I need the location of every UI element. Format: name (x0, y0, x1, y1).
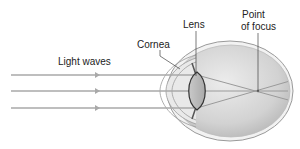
label-light-waves: Light waves (58, 56, 111, 67)
lens (189, 72, 206, 110)
ray-arrowhead (95, 72, 100, 78)
eye-diagram: Light waves Cornea Lens Point of focus (0, 0, 300, 149)
label-point-of-focus-2: of focus (241, 21, 276, 32)
label-point-of-focus-1: Point (242, 9, 265, 20)
label-cornea: Cornea (137, 39, 170, 50)
label-lens: Lens (183, 19, 205, 30)
ray-arrowhead (95, 105, 100, 111)
ray-arrowhead (95, 88, 100, 94)
